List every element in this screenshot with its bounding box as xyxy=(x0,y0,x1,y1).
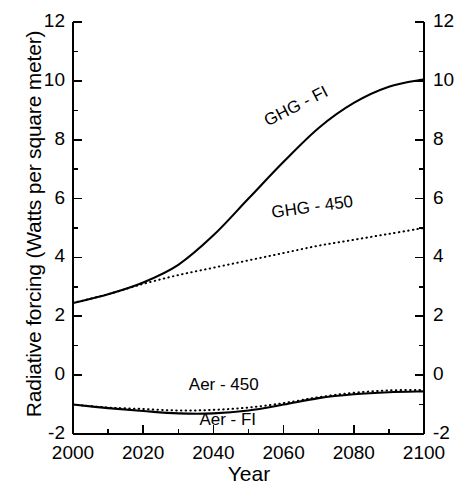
y-axis-tick-label-left: 2 xyxy=(7,304,65,326)
radiative-forcing-chart: Radiative forcing (Watts per square mete… xyxy=(0,0,466,494)
y-axis-tick-label-right: 10 xyxy=(433,69,466,91)
x-axis-title: Year xyxy=(73,462,425,486)
y-axis-tick-label-left: 10 xyxy=(7,69,65,91)
series-annotation-aer-fi: Aer - FI xyxy=(199,410,256,430)
axes xyxy=(73,22,424,434)
y-axis-tick-label-right: 6 xyxy=(433,187,466,209)
y-axis-tick-label-left: 4 xyxy=(7,245,65,267)
y-axis-tick-label-right: -2 xyxy=(433,422,466,444)
series-line-ghg-450 xyxy=(73,228,424,303)
y-axis-tick-label-left: 8 xyxy=(7,128,65,150)
y-axis-tick-label-left: 0 xyxy=(7,363,65,385)
series-annotation-aer-450: Aer - 450 xyxy=(189,375,259,395)
data-series xyxy=(73,79,424,413)
y-axis-tick-label-right: 4 xyxy=(433,245,466,267)
y-axis-tick-label-right: 0 xyxy=(433,363,466,385)
y-axis-tick-label-right: 12 xyxy=(433,10,466,32)
y-axis-tick-label-left: 6 xyxy=(7,187,65,209)
y-axis-tick-label-right: 2 xyxy=(433,304,466,326)
series-line-ghg-fi xyxy=(73,79,424,303)
y-axis-tick-label-left: -2 xyxy=(7,422,65,444)
y-axis-tick-label-right: 8 xyxy=(433,128,466,150)
x-axis-tick-label: 2100 xyxy=(379,442,466,464)
y-axis-tick-label-left: 12 xyxy=(7,10,65,32)
